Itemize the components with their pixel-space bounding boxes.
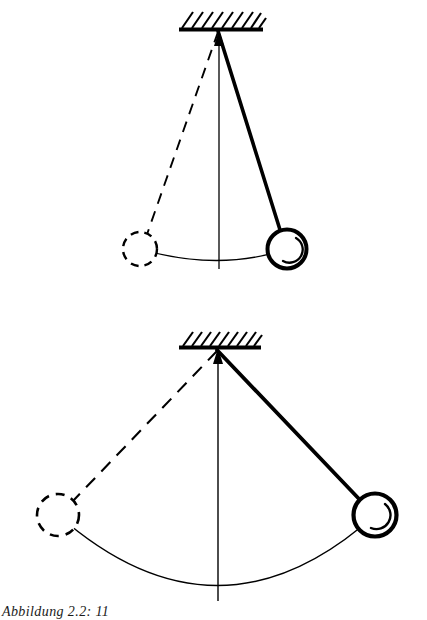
dashed-bob-lower <box>37 494 79 536</box>
pendulum-diagram <box>0 0 427 620</box>
dashed-bob <box>123 232 157 266</box>
figure-root: Abbildung 2.2: 11 <box>0 0 427 620</box>
